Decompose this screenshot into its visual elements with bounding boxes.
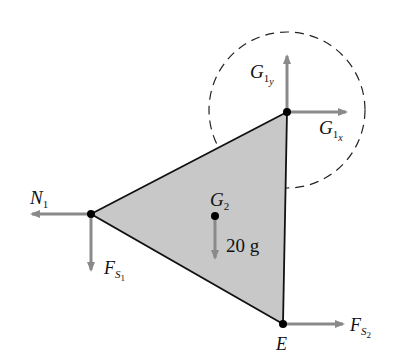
label-fs1: FS1 [103,258,125,283]
joint-top [283,108,291,116]
center-of-mass-g2 [211,212,219,220]
label-n1: N1 [29,187,48,210]
free-body-diagram: G1y G1x N1 FS1 G2 20 g FS2 E [0,0,399,359]
triangle-body [91,112,287,324]
joint-e [279,320,287,328]
label-g1y: G1y [250,61,274,87]
label-weight: 20 g [226,235,260,256]
label-fs2: FS2 [349,315,371,340]
joint-left [87,210,95,218]
label-e: E [275,334,287,354]
label-g1x: G1x [319,117,343,143]
